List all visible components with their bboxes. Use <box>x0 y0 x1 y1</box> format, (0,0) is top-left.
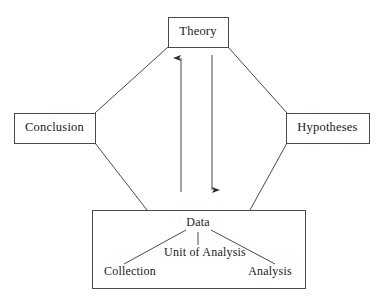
collection-label: Collection <box>90 265 170 277</box>
data-label: Data <box>148 216 248 228</box>
connector-theory-hypotheses <box>228 47 287 113</box>
connector-hypotheses-data <box>250 143 287 210</box>
connector-theory-conclusion <box>95 47 168 113</box>
connector-conclusion-data <box>95 143 147 210</box>
hypotheses-label: Hypotheses <box>286 121 369 134</box>
research-cycle-diagram: Theory Conclusion Hypotheses Data Unit o… <box>0 0 379 300</box>
unit-of-analysis-label: Unit of Analysis <box>145 246 265 258</box>
analysis-label: Analysis <box>238 265 302 277</box>
theory-label: Theory <box>168 25 228 38</box>
conclusion-label: Conclusion <box>14 121 95 134</box>
